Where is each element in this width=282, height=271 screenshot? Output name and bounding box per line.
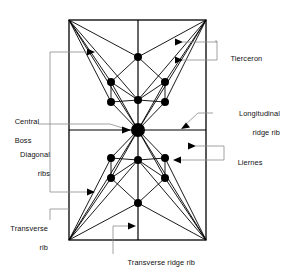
lierne-ll-inner-to-ridge-node: [111, 158, 138, 160]
arrowhead-longitudinal-ridge-rib: [181, 123, 190, 130]
arrowhead-liernes-bottom: [173, 157, 181, 164]
boss-lower-left-inner: [107, 154, 115, 162]
arrowhead-tierceron-top: [175, 39, 183, 46]
diagonal-rib-tr: [138, 20, 206, 130]
label-liernes: Liernes: [229, 149, 281, 177]
label-longitudinal-ridge-rib: Longitudinal ridge rib: [205, 100, 280, 146]
tierceron-bl-to-boss-outer: [69, 178, 111, 240]
leader-tierceron: [175, 39, 217, 64]
boss-ridge-upper-inner: [134, 96, 142, 104]
label-central-boss-line1: Central: [15, 117, 40, 126]
boss-ridge-lower-outer: [134, 199, 142, 207]
leader-diagonal-ribs: [50, 49, 95, 196]
boss-lower-left-outer: [107, 174, 115, 182]
label-transverse-rib-line2: rib: [39, 243, 48, 252]
tierceron-br-to-ridge-lower: [138, 203, 206, 240]
tierceron-tl-to-ridge-upper: [69, 20, 138, 57]
boss-ridge-lower-inner: [134, 156, 142, 164]
lierne-ridge-upper-right-v: [138, 57, 165, 82]
tierceron-bl-to-ridge-lower: [69, 203, 138, 240]
boss-upper-left-outer: [107, 78, 115, 86]
lierne-ridge-upper-left-v: [111, 57, 138, 82]
label-transverse-rib: Transverse rib: [0, 215, 48, 261]
lierne-lr-inner-to-ridge-node: [138, 158, 165, 160]
boss-upper-right-outer: [161, 78, 169, 86]
label-transverse-rib-line1: Transverse: [10, 224, 48, 233]
tierceron-tr-to-ridge-upper: [138, 20, 206, 57]
lierne-ul-inner-to-ridge-node: [111, 100, 138, 102]
boss-upper-right-inner: [161, 98, 169, 106]
label-diagonal-ribs: Diagonal ribs: [2, 141, 50, 187]
arrowhead-tierceron-bottom: [175, 57, 183, 64]
diagonal-rib-bl: [69, 130, 138, 240]
label-diagonal-ribs-line2: ribs: [38, 169, 50, 178]
label-tierceron: Tierceron: [222, 45, 280, 73]
diagonal-rib-br: [138, 130, 206, 240]
label-longitudinal-ridge-rib-line1: Longitudinal: [239, 109, 280, 118]
lierne-ridge-lower-left-v: [111, 178, 138, 203]
central-boss: [131, 123, 145, 137]
boss-lower-right-inner: [161, 154, 169, 162]
boss-lower-right-outer: [161, 174, 169, 182]
leader-transverse-rib: [50, 209, 69, 220]
label-transverse-ridge-rib: Transverse ridge rib: [119, 249, 259, 271]
arrowhead-diagonal-ribs-bottom: [87, 189, 95, 196]
tierceron-br-to-boss-outer: [165, 178, 206, 240]
arrowhead-transverse-ridge-rib: [128, 223, 136, 230]
boss-upper-left-inner: [107, 98, 115, 106]
label-diagonal-ribs-line1: Diagonal: [20, 150, 50, 159]
lierne-ridge-lower-right-v: [138, 178, 165, 203]
arrowhead-central-boss: [122, 127, 131, 134]
lierne-ur-inner-to-ridge-node: [138, 100, 165, 102]
tierceron-tr-to-boss-outer: [165, 20, 206, 82]
label-transverse-ridge-rib-text: Transverse ridge rib: [127, 258, 194, 267]
boss-ridge-upper-outer: [134, 53, 142, 61]
label-tierceron-text: Tierceron: [230, 54, 262, 63]
leader-transverse-rib-line: [50, 209, 69, 220]
diagonal-rib-tl: [69, 20, 138, 130]
label-longitudinal-ridge-rib-line2: ridge rib: [252, 128, 280, 137]
label-liernes-text: Liernes: [238, 158, 263, 167]
arrowhead-liernes-top: [188, 143, 196, 150]
